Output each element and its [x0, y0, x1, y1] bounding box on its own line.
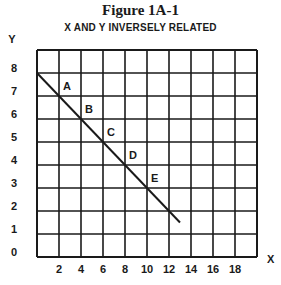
- y-tick-label: 3: [11, 177, 17, 189]
- point-label-d: D: [129, 149, 137, 161]
- point-label-c: C: [107, 126, 115, 138]
- x-tick-label: 10: [141, 263, 153, 275]
- x-axis-label: X: [267, 253, 275, 265]
- y-tick-label: 5: [11, 131, 17, 143]
- x-tick-label: 2: [56, 263, 62, 275]
- x-tick-label: 6: [100, 263, 106, 275]
- x-tick-label: 12: [163, 263, 175, 275]
- y-tick-label: 8: [11, 62, 17, 74]
- point-label-b: B: [85, 103, 93, 115]
- x-tick-label: 14: [185, 263, 198, 275]
- y-tick-label: 2: [11, 200, 17, 212]
- y-axis-label: Y: [8, 33, 16, 45]
- y-tick-label: 0: [11, 246, 17, 258]
- x-tick-label: 8: [122, 263, 128, 275]
- y-tick-label: 6: [11, 108, 17, 120]
- x-tick-label: 16: [207, 263, 219, 275]
- y-tick-label: 7: [11, 85, 17, 97]
- point-label-a: A: [63, 80, 71, 92]
- y-tick-label: 1: [11, 223, 17, 235]
- line-chart: 24681012141618012345678XYABCDE: [0, 0, 281, 285]
- x-tick-label: 4: [78, 263, 85, 275]
- point-label-e: E: [151, 172, 158, 184]
- x-tick-label: 18: [229, 263, 241, 275]
- y-tick-label: 4: [11, 154, 18, 166]
